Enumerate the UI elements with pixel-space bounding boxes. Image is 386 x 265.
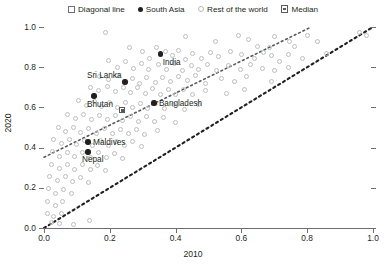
data-point-rest-of-world[interactable] (112, 151, 117, 156)
data-point-rest-of-world[interactable] (130, 139, 135, 144)
data-point-rest-of-world[interactable] (96, 88, 101, 93)
data-point-rest-of-world[interactable] (136, 119, 141, 124)
data-point-rest-of-world[interactable] (102, 126, 107, 131)
data-point-rest-of-world[interactable] (173, 120, 178, 125)
data-point-rest-of-world[interactable] (60, 199, 65, 204)
data-point-rest-of-world[interactable] (71, 222, 76, 227)
data-point-rest-of-world[interactable] (49, 162, 54, 167)
data-point-rest-of-world[interactable] (154, 45, 159, 50)
data-point-rest-of-world[interactable] (158, 92, 163, 97)
data-point-rest-of-world[interactable] (49, 220, 54, 225)
data-point-rest-of-world[interactable] (123, 59, 128, 64)
data-point-rest-of-world[interactable] (357, 30, 362, 35)
data-point-rest-of-world[interactable] (53, 203, 58, 208)
data-point-rest-of-world[interactable] (130, 105, 135, 110)
data-point-rest-of-world[interactable] (176, 48, 181, 53)
data-point-rest-of-world[interactable] (46, 186, 51, 191)
data-point-rest-of-world[interactable] (76, 98, 81, 103)
data-point-rest-of-world[interactable] (239, 52, 244, 57)
data-point-rest-of-world[interactable] (61, 187, 66, 192)
data-point-rest-of-world[interactable] (269, 53, 274, 58)
data-point-rest-of-world[interactable] (131, 66, 136, 71)
data-point-rest-of-world[interactable] (72, 154, 77, 159)
data-point-rest-of-world[interactable] (139, 144, 144, 149)
data-point-rest-of-world[interactable] (110, 131, 115, 136)
data-point-rest-of-world[interactable] (196, 67, 201, 72)
data-point-rest-of-world[interactable] (120, 156, 125, 161)
data-point-rest-of-world[interactable] (51, 137, 56, 142)
data-point-rest-of-world[interactable] (134, 127, 139, 132)
data-point-rest-of-world[interactable] (238, 67, 243, 72)
data-point-south-asia[interactable] (85, 139, 90, 144)
data-point-rest-of-world[interactable] (74, 142, 79, 147)
data-point-rest-of-world[interactable] (193, 73, 198, 78)
data-point-rest-of-world[interactable] (67, 137, 72, 142)
data-point-rest-of-world[interactable] (205, 62, 210, 67)
data-point-rest-of-world[interactable] (170, 53, 175, 58)
data-point-rest-of-world[interactable] (242, 87, 247, 92)
data-point-rest-of-world[interactable] (57, 154, 62, 159)
data-point-rest-of-world[interactable] (255, 44, 260, 49)
data-point-rest-of-world[interactable] (88, 167, 93, 172)
data-point-rest-of-world[interactable] (189, 63, 194, 68)
data-point-rest-of-world[interactable] (144, 114, 149, 119)
data-point-rest-of-world[interactable] (72, 167, 77, 172)
data-point-rest-of-world[interactable] (104, 155, 109, 160)
data-point-rest-of-world[interactable] (156, 62, 161, 67)
data-point-rest-of-world[interactable] (152, 119, 157, 124)
data-point-rest-of-world[interactable] (115, 65, 120, 70)
data-point-rest-of-world[interactable] (163, 49, 168, 54)
data-point-rest-of-world[interactable] (286, 65, 291, 70)
data-point-rest-of-world[interactable] (261, 50, 266, 55)
data-point-rest-of-world[interactable] (113, 113, 118, 118)
data-point-rest-of-world[interactable] (73, 116, 78, 121)
data-point-rest-of-world[interactable] (146, 67, 151, 72)
data-point-rest-of-world[interactable] (260, 66, 265, 71)
data-point-rest-of-world[interactable] (145, 106, 150, 111)
data-point-rest-of-world[interactable] (216, 54, 221, 59)
data-point-rest-of-world[interactable] (180, 68, 185, 73)
data-point-rest-of-world[interactable] (51, 214, 56, 219)
data-point-rest-of-world[interactable] (121, 85, 126, 90)
data-point-rest-of-world[interactable] (65, 150, 70, 155)
data-point-rest-of-world[interactable] (57, 166, 62, 171)
data-point-rest-of-world[interactable] (130, 76, 135, 81)
data-point-south-asia[interactable] (85, 149, 90, 154)
data-point-rest-of-world[interactable] (173, 92, 178, 97)
data-point-rest-of-world[interactable] (118, 127, 123, 132)
data-point-rest-of-world[interactable] (78, 175, 83, 180)
data-point-rest-of-world[interactable] (127, 45, 132, 50)
data-point-rest-of-world[interactable] (164, 67, 169, 72)
data-point-rest-of-world[interactable] (53, 191, 58, 196)
data-point-rest-of-world[interactable] (57, 221, 62, 226)
data-point-rest-of-world[interactable] (45, 211, 50, 216)
data-point-rest-of-world[interactable] (59, 141, 64, 146)
data-point-median[interactable] (119, 107, 125, 113)
data-point-rest-of-world[interactable] (248, 62, 253, 67)
data-point-rest-of-world[interactable] (199, 56, 204, 61)
data-point-rest-of-world[interactable] (153, 80, 158, 85)
data-point-rest-of-world[interactable] (213, 39, 218, 44)
data-point-rest-of-world[interactable] (272, 34, 277, 39)
data-point-rest-of-world[interactable] (150, 86, 155, 91)
data-point-rest-of-world[interactable] (286, 52, 291, 57)
data-point-south-asia[interactable] (122, 79, 127, 84)
data-point-rest-of-world[interactable] (128, 114, 133, 119)
data-point-rest-of-world[interactable] (143, 91, 148, 96)
data-point-rest-of-world[interactable] (190, 51, 195, 56)
data-point-rest-of-world[interactable] (105, 117, 110, 122)
data-point-rest-of-world[interactable] (55, 178, 60, 183)
data-point-rest-of-world[interactable] (236, 33, 241, 38)
data-point-rest-of-world[interactable] (208, 50, 213, 55)
data-point-rest-of-world[interactable] (226, 63, 231, 68)
data-point-south-asia[interactable] (91, 93, 96, 98)
data-point-rest-of-world[interactable] (203, 88, 208, 93)
data-point-rest-of-world[interactable] (144, 75, 149, 80)
data-point-rest-of-world[interactable] (214, 68, 219, 73)
data-point-rest-of-world[interactable] (65, 112, 70, 117)
data-point-rest-of-world[interactable] (292, 44, 297, 49)
data-point-south-asia[interactable] (151, 100, 156, 105)
data-point-rest-of-world[interactable] (47, 174, 52, 179)
data-point-rest-of-world[interactable] (287, 39, 292, 44)
data-point-rest-of-world[interactable] (300, 56, 305, 61)
